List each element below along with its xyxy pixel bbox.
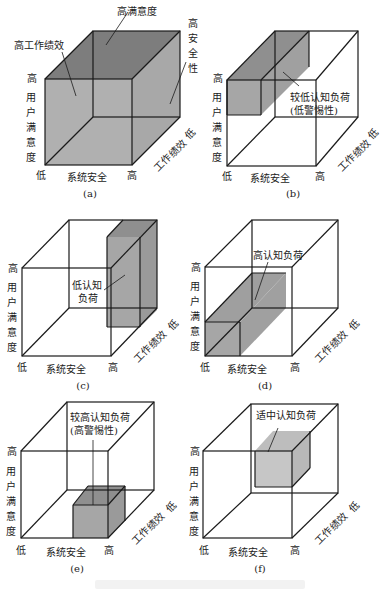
x-axis-label-d: 系统安全 (227, 364, 267, 376)
y-axis-label-d: 用户满意度 (189, 279, 201, 354)
annotation-low-load-2: 负荷 (78, 293, 98, 305)
annotation-high-load: 高认知负荷 (253, 250, 303, 262)
x-axis-low-d: 低 (200, 362, 210, 374)
x-axis-low-c: 低 (17, 362, 27, 374)
caption-c: (c) (68, 380, 98, 392)
annotation-lower-load: 较低认知负荷 (290, 92, 350, 104)
y-axis-label-e: 用户满意度 (5, 464, 17, 539)
caption-b: (b) (278, 188, 308, 200)
y-axis-high-a: 高 (27, 73, 37, 85)
caption-d: (d) (250, 380, 280, 392)
y-axis-high-f: 高 (190, 446, 200, 458)
annotation-high-satisfaction: 高满意度 (117, 6, 157, 18)
cube-f (203, 404, 338, 538)
cube-d (205, 220, 338, 356)
x-axis-label-c: 系统安全 (46, 364, 86, 376)
y-axis-label-b: 用户满意度 (211, 90, 223, 165)
y-axis-high-d: 高 (191, 262, 201, 274)
annotation-higher-load: 较高认知负荷 (70, 412, 130, 424)
x-axis-low-f: 低 (199, 545, 209, 557)
x-axis-high-e: 高 (104, 545, 114, 557)
annotation-high-performance: 高工作绩效 (14, 40, 64, 52)
x-axis-low-e: 低 (16, 545, 26, 557)
cube-a (45, 12, 186, 165)
x-axis-high-f: 高 (290, 545, 300, 557)
caption-f: (f) (245, 563, 275, 575)
y-axis-high-c: 高 (8, 263, 18, 275)
y-axis-label-a: 用户满意度 (25, 90, 37, 165)
x-axis-high-a: 高 (127, 170, 137, 182)
y-axis-high-b: 高 (213, 73, 223, 85)
x-axis-high-d: 高 (290, 362, 300, 374)
annotation-low-load: 低认知 (72, 280, 102, 292)
x-axis-low-b: 低 (222, 171, 232, 183)
y-axis-high-e: 高 (7, 446, 17, 458)
x-axis-label-b: 系统安全 (250, 173, 290, 185)
caption-e: (e) (62, 563, 92, 575)
x-axis-label-f: 系统安全 (228, 547, 268, 559)
x-axis-label-e: 系统安全 (46, 547, 86, 559)
annotation-low-vigilance: (低警惕性) (290, 105, 338, 117)
caption-a: (a) (75, 188, 105, 200)
y-axis-label-f: 用户满意度 (188, 464, 200, 539)
annotation-high-safety: 高安全性 (187, 16, 199, 76)
annotation-moderate-load: 适中认知负荷 (256, 410, 316, 422)
x-axis-high-c: 高 (108, 362, 118, 374)
figure-caption-faint (95, 580, 305, 589)
x-axis-low-a: 低 (36, 170, 46, 182)
x-axis-label-a: 系统安全 (67, 172, 107, 184)
annotation-high-vigilance: (高警惕性) (70, 425, 118, 437)
y-axis-label-c: 用户满意度 (6, 280, 18, 355)
x-axis-high-b: 高 (315, 171, 325, 183)
